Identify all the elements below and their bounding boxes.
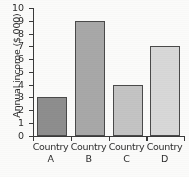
y-tick-label: 7 bbox=[18, 42, 24, 52]
x-tick-label-country-d: Country D bbox=[143, 141, 186, 164]
y-tick-label: 10 bbox=[12, 3, 24, 13]
y-tick-label: 3 bbox=[18, 93, 24, 103]
y-tick-label: 2 bbox=[18, 105, 24, 115]
x-label-line1: Country bbox=[147, 141, 183, 152]
x-label-line1: Country bbox=[33, 141, 69, 152]
y-axis-line bbox=[33, 8, 34, 137]
bar-country-c bbox=[113, 85, 143, 136]
bar-country-d bbox=[150, 46, 180, 135]
y-tick-label: 8 bbox=[18, 29, 24, 39]
x-label-line1: Country bbox=[71, 141, 107, 152]
x-tick-label-country-c: Country C bbox=[105, 141, 148, 164]
x-label-line2: B bbox=[67, 153, 110, 165]
bar-country-b bbox=[75, 21, 105, 136]
y-tick-label: 5 bbox=[18, 67, 24, 77]
y-tick-label: 4 bbox=[18, 80, 24, 90]
y-tick-label: 9 bbox=[18, 16, 24, 26]
y-tick-label: 6 bbox=[18, 54, 24, 64]
x-label-line2: D bbox=[143, 153, 186, 165]
y-tick-label: 1 bbox=[18, 118, 24, 128]
x-label-line2: A bbox=[29, 153, 72, 165]
bar-country-a bbox=[37, 97, 67, 135]
y-tick-label: 0 bbox=[18, 131, 24, 141]
x-tick-label-country-b: Country B bbox=[67, 141, 110, 164]
x-tick-label-country-a: Country A bbox=[29, 141, 72, 164]
bar-chart: Annual income ($ 000) 10 9 8 7 6 5 4 3 2… bbox=[0, 0, 189, 177]
plot-area: 10 9 8 7 6 5 4 3 2 1 0 bbox=[33, 8, 185, 137]
x-label-line2: C bbox=[105, 153, 148, 165]
x-label-line1: Country bbox=[109, 141, 145, 152]
